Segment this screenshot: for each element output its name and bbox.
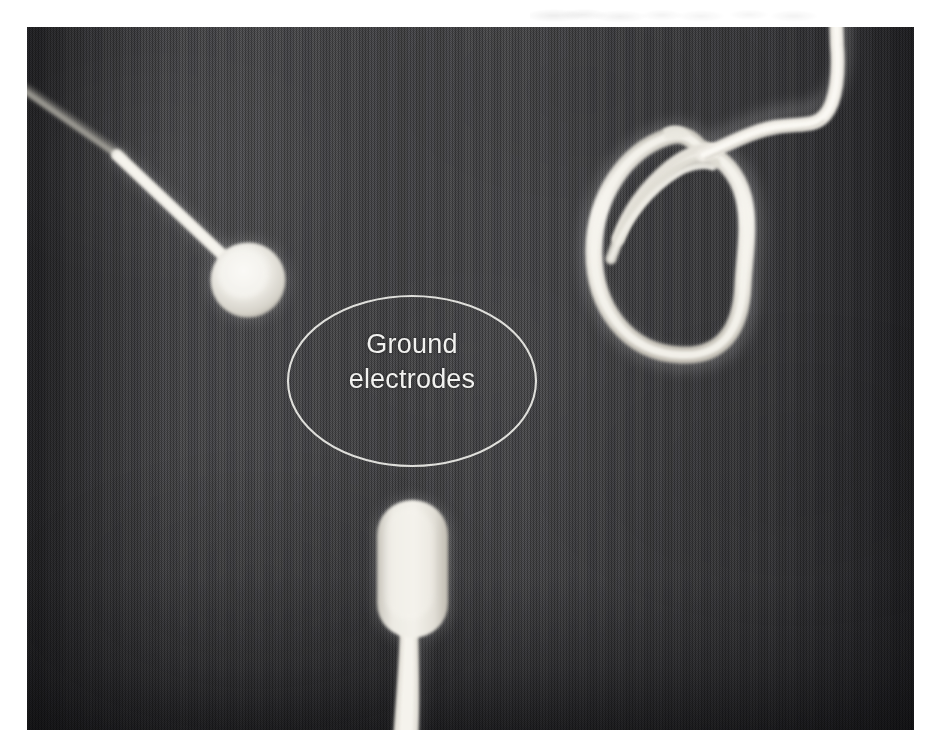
- bleed-through-artifacts: [530, 2, 830, 24]
- annotation-label: Ground electrodes: [296, 327, 528, 397]
- radiograph-figure: Ground electrodes: [0, 0, 934, 747]
